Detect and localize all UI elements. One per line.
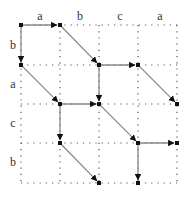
top-label-2: c — [117, 9, 122, 23]
node-3-3 — [136, 141, 140, 145]
top-label-3: a — [157, 9, 163, 23]
edge-diagonal-9 — [100, 105, 135, 140]
alignment-graph: a b c a b a c b — [0, 0, 190, 201]
left-label-1: a — [10, 77, 16, 91]
node-2-1 — [97, 63, 101, 67]
node-3-1 — [136, 63, 140, 67]
graph-nodes — [19, 23, 179, 185]
node-0-1 — [19, 63, 23, 67]
node-2-2 — [97, 102, 101, 106]
node-1-2 — [58, 102, 62, 106]
left-label-2: c — [10, 116, 15, 130]
node-0-0 — [19, 23, 23, 27]
top-label-0: a — [37, 9, 43, 23]
node-1-0 — [58, 23, 62, 27]
edge-diagonal-6 — [139, 66, 174, 101]
node-2-4 — [97, 181, 101, 185]
edge-diagonal-10 — [61, 144, 97, 180]
edge-diagonal-2 — [61, 26, 97, 62]
left-label-0: b — [10, 38, 16, 52]
edge-diagonal-3 — [22, 66, 57, 101]
sequence-labels: a b c a b a c b — [10, 9, 163, 169]
node-4-3 — [175, 141, 179, 145]
node-3-4 — [136, 181, 140, 185]
left-label-3: b — [10, 155, 16, 169]
top-label-1: b — [77, 9, 83, 23]
node-4-2 — [175, 102, 179, 106]
node-1-3 — [58, 141, 62, 145]
